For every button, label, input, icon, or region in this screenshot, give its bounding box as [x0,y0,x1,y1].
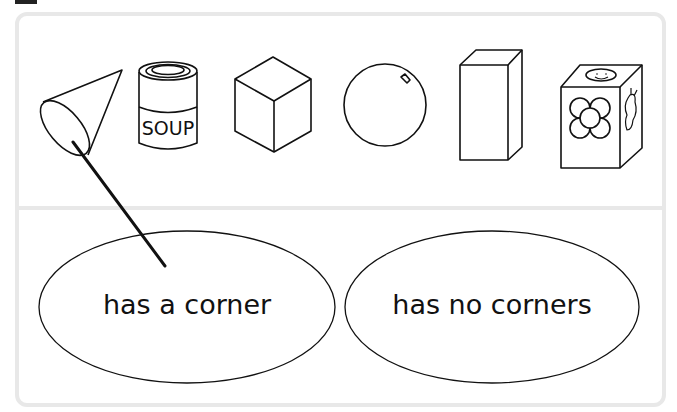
connection-line [73,142,165,266]
toy-cube-shape[interactable] [561,65,642,168]
cube-shape[interactable] [235,57,311,152]
soup-label: SOUP [142,117,194,139]
sphere-shape[interactable] [344,64,426,146]
soup-can-shape[interactable]: SOUP [139,62,197,149]
cuboid-shape[interactable] [460,50,522,160]
category-label-has-no-corners: has no corners [345,289,639,320]
category-label-has-a-corner: has a corner [39,289,335,320]
